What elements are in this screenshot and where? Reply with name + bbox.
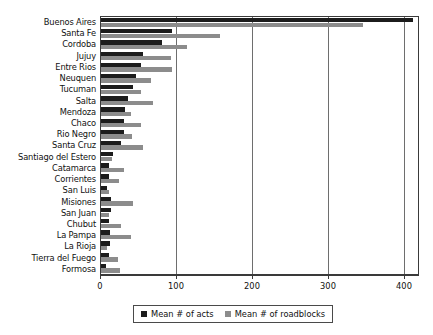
category-label: Santa Cruz [0,140,96,150]
x-tick-label: 300 [320,281,336,291]
bar-group [101,85,419,95]
bar-rows [101,17,419,274]
category-label: Tucuman [0,84,96,94]
category-label: Chubut [0,219,96,229]
x-tick [404,275,405,279]
legend: Mean # of acts Mean # of roadblocks [133,305,333,323]
category-label: Cordoba [0,39,96,49]
category-label: Tierra del Fuego [0,253,96,263]
category-label: San Luis [0,185,96,195]
x-tick-label: 400 [396,281,412,291]
bar-group [101,141,419,151]
legend-label-roadblocks: Mean # of roadblocks [235,309,325,319]
bar-roadblocks [101,78,151,82]
category-label: Catamarca [0,163,96,173]
bar-group [101,174,419,184]
category-label: Neuquen [0,73,96,83]
bar-roadblocks [101,145,143,149]
bar-roadblocks [101,134,132,138]
legend-label-acts: Mean # of acts [151,309,214,319]
bar-group [101,186,419,196]
x-tick [328,275,329,279]
category-label: Jujuy [0,51,96,61]
bar-group [101,119,419,129]
category-label: Misiones [0,197,96,207]
bar-group [101,96,419,106]
bar-roadblocks [101,257,118,261]
x-tick [176,275,177,279]
bar-roadblocks [101,168,124,172]
bar-roadblocks [101,157,112,161]
category-label: Formosa [0,264,96,274]
bar-group [101,74,419,84]
bar-roadblocks [101,101,153,105]
legend-item-roadblocks: Mean # of roadblocks [225,309,325,319]
bar-roadblocks [101,123,141,127]
legend-swatch-acts [141,311,147,317]
bar-group [101,163,419,173]
category-label: Santiago del Estero [0,152,96,162]
bar-roadblocks [101,201,133,205]
category-label: Mendoza [0,107,96,117]
bar-group [101,230,419,240]
category-label: San Juan [0,208,96,218]
category-label: Buenos Aires [0,17,96,27]
x-tick [100,275,101,279]
bar-roadblocks [101,213,109,217]
bar-roadblocks [101,112,131,116]
bar-group [101,40,419,50]
bar-group [101,264,419,274]
legend-swatch-roadblocks [225,311,231,317]
bar-group [101,208,419,218]
x-tick-label: 100 [168,281,184,291]
bar-roadblocks [101,56,171,60]
bar-roadblocks [101,190,109,194]
bar-group [101,197,419,207]
category-label: Salta [0,96,96,106]
bar-roadblocks [101,23,363,27]
bar-roadblocks [101,235,131,239]
bar-roadblocks [101,268,120,272]
bar-group [101,52,419,62]
bar-roadblocks [101,34,220,38]
bar-group [101,107,419,117]
category-label: Rio Negro [0,129,96,139]
x-axis-line [100,275,419,276]
category-axis-labels: Buenos AiresSanta FeCordobaJujuyEntre Ri… [0,17,96,274]
bar-group [101,63,419,73]
bar-roadblocks [101,45,187,49]
x-tick-label: 0 [97,281,102,291]
bar-group [101,18,419,28]
bar-group [101,29,419,39]
x-tick [252,275,253,279]
bar-group [101,253,419,263]
category-label: Chaco [0,118,96,128]
x-tick-label: 200 [244,281,260,291]
category-label: Entre Rios [0,62,96,72]
category-label: La Pampa [0,230,96,240]
bar-group [101,130,419,140]
category-label: La Rioja [0,241,96,251]
bar-chart: Buenos AiresSanta FeCordobaJujuyEntre Ri… [0,0,433,335]
category-label: Corrientes [0,174,96,184]
bar-roadblocks [101,67,172,71]
category-label: Santa Fe [0,28,96,38]
bar-roadblocks [101,224,121,228]
bar-roadblocks [101,90,141,94]
bar-group [101,152,419,162]
bar-group [101,219,419,229]
bar-roadblocks [101,246,107,250]
bar-group [101,241,419,251]
bar-roadblocks [101,179,119,183]
legend-item-acts: Mean # of acts [141,309,214,319]
